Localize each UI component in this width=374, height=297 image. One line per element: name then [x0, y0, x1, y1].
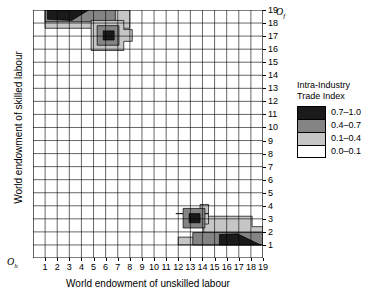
plot-area [33, 10, 263, 258]
x-origin-subscript: h [14, 262, 18, 270]
x-tick-mark [251, 258, 252, 261]
contour-chart-figure: 12345678910111213141516171819 1234567891… [0, 0, 374, 297]
y-tick-label: 6 [268, 176, 273, 185]
y-origin-label: Of [276, 6, 285, 20]
legend: Intra-Industry Trade Index 0.7–1.00.4–0.… [297, 80, 374, 158]
y-tick-mark [263, 167, 266, 168]
legend-row: 0.4–0.7 [297, 119, 374, 132]
contour-regions-layer [33, 10, 263, 258]
y-tick-label: 17 [268, 32, 278, 41]
y-tick-mark [263, 101, 266, 102]
y-tick-mark [263, 206, 266, 207]
legend-label: 0.1–0.4 [331, 132, 361, 145]
x-tick-mark [94, 258, 95, 261]
x-tick-mark [106, 258, 107, 261]
y-tick-mark [263, 232, 266, 233]
y-tick-mark [263, 36, 266, 37]
legend-swatch [297, 106, 326, 119]
y-axis-title: World endowment of skilled labour [13, 38, 24, 218]
x-tick-mark [57, 258, 58, 261]
y-tick-label: 18 [268, 19, 278, 28]
y-tick-mark [263, 23, 266, 24]
legend-swatch [297, 119, 326, 132]
x-tick-mark [130, 258, 131, 261]
legend-title: Intra-Industry Trade Index [297, 80, 374, 102]
legend-swatch [297, 132, 326, 145]
y-tick-label: 8 [268, 150, 273, 159]
y-tick-label: 2 [268, 228, 273, 237]
x-tick-mark [190, 258, 191, 261]
x-tick-mark [239, 258, 240, 261]
y-tick-mark [263, 180, 266, 181]
contour-region [103, 31, 114, 40]
x-tick-mark [45, 258, 46, 261]
legend-row: 0.7–1.0 [297, 106, 374, 119]
y-tick-label: 13 [268, 84, 278, 93]
legend-label: 0.4–0.7 [331, 119, 361, 132]
y-tick-mark [263, 75, 266, 76]
legend-label: 0.0–0.1 [331, 145, 361, 158]
y-tick-label: 9 [268, 137, 273, 146]
legend-row: 0.0–0.1 [297, 145, 374, 158]
y-tick-label: 12 [268, 97, 278, 106]
x-tick-mark [263, 258, 264, 261]
legend-label: 0.7–1.0 [331, 106, 361, 119]
legend-swatch [297, 145, 326, 158]
x-origin-label: Oh [7, 256, 18, 270]
y-tick-label: 14 [268, 71, 278, 80]
y-tick-label: 10 [268, 123, 278, 132]
y-origin-subscript: f [283, 12, 285, 20]
x-tick-mark [202, 258, 203, 261]
y-tick-mark [263, 141, 266, 142]
x-tick-mark [81, 258, 82, 261]
y-tick-mark [263, 219, 266, 220]
y-tick-mark [263, 245, 266, 246]
legend-title-line1: Intra-Industry [297, 80, 374, 91]
y-tick-label: 7 [268, 163, 273, 172]
y-tick-mark [263, 88, 266, 89]
y-tick-label: 11 [268, 110, 277, 119]
contour-region [189, 214, 200, 223]
y-tick-label: 5 [268, 189, 273, 198]
x-tick-mark [118, 258, 119, 261]
y-tick-mark [263, 114, 266, 115]
y-tick-mark [263, 193, 266, 194]
y-tick-label: 15 [268, 58, 278, 67]
legend-row: 0.1–0.4 [297, 132, 374, 145]
x-tick-mark [154, 258, 155, 261]
y-tick-mark [263, 127, 266, 128]
legend-items: 0.7–1.00.4–0.70.1–0.40.0–0.1 [297, 106, 374, 158]
y-tick-label: 4 [268, 202, 273, 211]
x-tick-mark [178, 258, 179, 261]
y-tick-label: 1 [268, 241, 273, 250]
x-tick-mark [215, 258, 216, 261]
y-tick-mark [263, 62, 266, 63]
x-axis-title: World endowment of unskilled labour [33, 278, 263, 289]
x-tick-label: 19 [255, 263, 271, 272]
x-tick-mark [166, 258, 167, 261]
y-tick-mark [263, 154, 266, 155]
y-tick-mark [263, 49, 266, 50]
x-tick-mark [69, 258, 70, 261]
x-tick-mark [227, 258, 228, 261]
y-tick-label: 3 [268, 215, 273, 224]
legend-title-line2: Trade Index [297, 91, 374, 102]
y-tick-label: 16 [268, 45, 278, 54]
y-tick-mark [263, 10, 266, 11]
x-tick-mark [142, 258, 143, 261]
